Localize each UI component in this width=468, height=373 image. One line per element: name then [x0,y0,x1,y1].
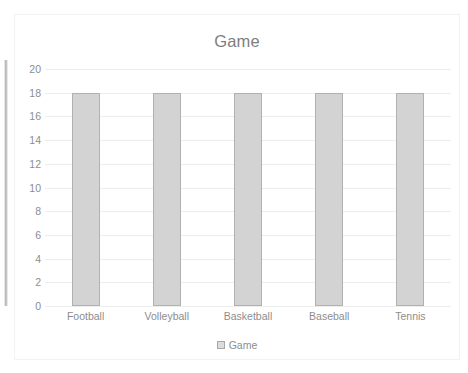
plot-area [45,69,451,306]
y-tick-label: 12 [11,158,41,170]
y-tick-label: 16 [11,110,41,122]
x-axis: FootballVolleyballBasketballBaseballTenn… [45,310,451,328]
y-tick-label: 10 [11,182,41,194]
y-axis: 02468101214161820 [15,69,41,306]
bar-volleyball[interactable] [153,93,181,306]
legend-label: Game [229,339,258,351]
bar-baseball[interactable] [315,93,343,306]
x-tick-label: Basketball [224,310,272,322]
x-tick-label: Tennis [395,310,425,322]
bar-tennis[interactable] [396,93,424,306]
y-tick-label: 2 [11,276,41,288]
y-tick-label: 14 [11,134,41,146]
y-tick-label: 0 [11,300,41,312]
y-tick-label: 6 [11,229,41,241]
x-tick-label: Baseball [309,310,349,322]
cropped-panel-edge-strip [4,60,8,306]
chart-title: Game [15,32,459,51]
x-tick-label: Football [67,310,104,322]
chart-legend[interactable]: Game [15,339,459,351]
gridline [45,306,451,307]
legend-swatch-icon [217,341,225,349]
bars-layer [45,69,451,306]
y-tick-label: 18 [11,87,41,99]
y-tick-label: 8 [11,205,41,217]
chart-panel[interactable]: Game 02468101214161820 FootballVolleybal… [14,14,460,360]
x-tick-label: Volleyball [145,310,189,322]
y-tick-label: 20 [11,63,41,75]
y-tick-label: 4 [11,253,41,265]
bar-basketball[interactable] [234,93,262,306]
bar-football[interactable] [72,93,100,306]
